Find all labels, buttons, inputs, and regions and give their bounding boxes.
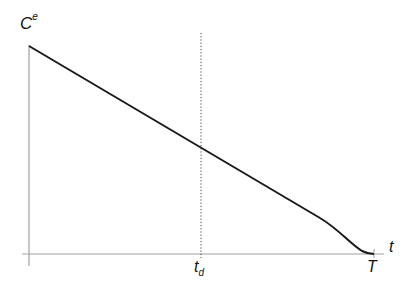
chart-canvas <box>0 0 410 282</box>
T-tick-label: T <box>367 258 377 276</box>
T-label-text: T <box>367 258 377 275</box>
y-axis-label-sup: e <box>32 11 38 22</box>
x-axis-label-text: t <box>389 238 393 255</box>
x-axis-label: t <box>389 238 393 256</box>
y-axis-label-base: C <box>20 14 32 33</box>
y-axis-label: Ce <box>20 13 38 34</box>
td-label-sub: d <box>198 267 204 278</box>
td-tick-label: td <box>194 258 204 278</box>
